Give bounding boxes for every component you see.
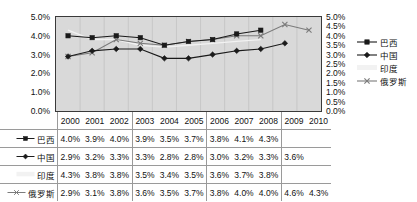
data-table-column-header: 2003	[132, 112, 157, 130]
right-axis-tick: 3.0%	[326, 51, 345, 59]
left-value-axis: 5.0%4.0%3.0%2.0%1.0%0.0%	[0, 0, 50, 120]
marker-diamond	[210, 52, 216, 57]
legend-item-4[interactable]: 俄罗斯	[357, 75, 417, 87]
gridlines	[80, 17, 297, 111]
legend-item-1[interactable]: 巴西	[357, 36, 417, 48]
data-table-cell: 3.5%	[157, 184, 182, 202]
legend-marker-icon	[357, 63, 377, 73]
legend-marker-icon	[357, 50, 377, 60]
left-axis-tick: 2.0%	[31, 69, 50, 77]
marker-square	[210, 37, 214, 41]
marker-square	[114, 34, 118, 38]
data-table-cell: 3.2%	[232, 148, 257, 166]
marker-square	[138, 36, 142, 40]
data-table-cell: 3.8%	[256, 166, 281, 184]
data-table-cell	[281, 166, 306, 184]
table-row: 印度4.3%3.8%3.8%3.5%3.4%3.5%3.6%3.7%3.8%	[0, 166, 331, 184]
data-table-cell: 3.6%	[132, 184, 157, 202]
right-axis-tick: 4.0%	[326, 32, 345, 40]
data-table-cell: 4.3%	[256, 130, 281, 148]
marker-diamond	[113, 46, 119, 51]
data-table-cell: 3.8%	[207, 130, 232, 148]
data-table-column-header: 2007	[232, 112, 257, 130]
data-table-cell: 4.3%	[58, 166, 83, 184]
data-table-column-header: 2004	[157, 112, 182, 130]
legend-item-3[interactable]: 印度	[357, 62, 417, 74]
data-table-column-header: 2001	[83, 112, 108, 130]
data-table-cell: 3.8%	[107, 166, 132, 184]
data-table-cell: 3.3%	[256, 148, 281, 166]
legend-label: 中国	[377, 49, 398, 61]
data-table-cell: 3.6%	[281, 148, 306, 166]
row-header-label: 印度	[37, 169, 55, 181]
data-table-cell: 3.7%	[182, 130, 207, 148]
data-table-column-header: 2006	[207, 112, 232, 130]
data-table-cell: 4.1%	[232, 130, 257, 148]
data-table-row-header: 巴西	[0, 130, 58, 148]
data-table-cell: 3.3%	[132, 148, 157, 166]
data-table-row-header: 印度	[0, 166, 58, 184]
data-table-column-header: 2002	[107, 112, 132, 130]
row-marker-icon	[7, 188, 26, 197]
plot-area	[55, 16, 322, 112]
right-axis-tick: 3.5%	[326, 41, 345, 49]
right-axis-tick: 2.5%	[326, 60, 345, 68]
marker-diamond	[364, 52, 370, 58]
data-table-cell: 3.5%	[182, 166, 207, 184]
data-table-cell: 3.6%	[207, 166, 232, 184]
data-table-header-row: 2000200120022003200420052006200720082009…	[0, 112, 331, 130]
data-table-cell: 2.9%	[58, 148, 83, 166]
marker-square	[259, 28, 263, 32]
marker-diamond	[23, 154, 28, 159]
data-table-cell: 3.5%	[157, 130, 182, 148]
left-axis-tick: 1.0%	[31, 88, 50, 96]
data-table-column-header: 2008	[256, 112, 281, 130]
row-header-label: 中国	[37, 151, 55, 163]
data-table-cell: 4.6%	[281, 184, 306, 202]
data-table-cell: 4.0%	[232, 184, 257, 202]
row-marker-icon	[16, 170, 35, 179]
chart-container: 5.0%4.0%3.0%2.0%1.0%0.0% 5.0%4.5%4.0%3.5…	[0, 0, 417, 201]
data-table-column-header: 2005	[182, 112, 207, 130]
data-table-column-header: 2009	[281, 112, 306, 130]
data-table-cell: 2.9%	[58, 184, 83, 202]
marker-square	[234, 32, 238, 36]
data-table-cell: 2.8%	[182, 148, 207, 166]
legend-item-2[interactable]: 中国	[357, 49, 417, 61]
legend-marker-icon	[357, 76, 377, 86]
marker-diamond	[234, 48, 240, 53]
right-axis-tick: 1.0%	[326, 88, 345, 96]
data-table-cell: 3.1%	[83, 184, 108, 202]
plot-svg	[56, 17, 321, 111]
chart-data-table: 2000200120022003200420052006200720082009…	[0, 112, 331, 201]
marker-square	[365, 40, 369, 44]
table-row: 巴西4.0%3.9%4.0%3.9%3.5%3.7%3.8%4.1%4.3%	[0, 130, 331, 148]
data-table-corner	[0, 112, 58, 130]
right-axis-tick: 5.0%	[326, 13, 345, 21]
marker-square	[90, 36, 94, 40]
data-table-cell: 2.8%	[157, 148, 182, 166]
data-table-cell	[306, 166, 331, 184]
data-table-cell: 3.5%	[132, 166, 157, 184]
marker-diamond	[258, 46, 264, 51]
marker-square	[162, 43, 166, 47]
right-axis-tick: 4.5%	[326, 22, 345, 30]
row-marker-icon	[16, 152, 35, 161]
table-row: 中国2.9%3.2%3.3%3.3%2.8%2.8%3.0%3.2%3.3%3.…	[0, 148, 331, 166]
right-axis-tick: 2.0%	[326, 69, 345, 77]
marker-diamond	[186, 56, 192, 61]
row-marker-icon	[16, 134, 35, 143]
table-row: 俄罗斯2.9%3.1%3.8%3.6%3.5%3.7%3.8%4.0%4.0%4…	[0, 184, 331, 202]
data-table-row-header: 俄罗斯	[0, 184, 58, 202]
left-axis-tick: 4.0%	[31, 32, 50, 40]
right-axis-tick: 1.5%	[326, 79, 345, 87]
data-table-cell: 3.2%	[83, 148, 108, 166]
marker-square	[24, 137, 28, 141]
data-table-cell: 3.8%	[83, 166, 108, 184]
marker-diamond	[162, 56, 168, 61]
data-table-cell: 3.8%	[107, 184, 132, 202]
right-value-axis: 5.0%4.5%4.0%3.5%3.0%2.5%2.0%1.5%1.0%0.5%…	[326, 0, 356, 120]
data-table-cell: 3.9%	[132, 130, 157, 148]
data-table-cell: 4.0%	[107, 130, 132, 148]
legend-label: 印度	[377, 62, 398, 74]
